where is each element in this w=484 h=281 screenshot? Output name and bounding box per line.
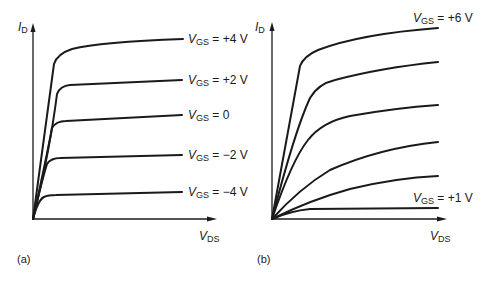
y-axis-label-b: ID — [255, 20, 265, 35]
curve-vgs-minus4 — [33, 192, 182, 219]
label-vgs-minus2: VGS = −2 V — [188, 148, 248, 163]
x-axis-arrow-icon — [207, 217, 217, 222]
label-vgs-plus6: VGS = +6 V — [413, 11, 473, 26]
label-vgs-plus4: VGS = +4 V — [188, 32, 248, 47]
y-axis-label-a: ID — [18, 20, 28, 35]
panel-a: ID VDS VGS = +4 V VGS = +2 V VGS = 0 VGS… — [17, 20, 248, 265]
panel-b: ID VDS VGS = +6 V VGS = +1 V (b) — [255, 11, 473, 265]
curve-vgs-plus1 — [272, 208, 438, 219]
label-vgs-0: VGS = 0 — [188, 108, 230, 123]
y-axis-arrow-icon — [270, 22, 275, 31]
label-vgs-minus4: VGS = −4 V — [188, 185, 248, 200]
vds-label-b: VDS — [430, 229, 451, 244]
panel-caption-a: (a) — [17, 253, 30, 265]
y-axis-arrow-icon — [31, 23, 36, 32]
vds-label-a: VDS — [199, 229, 220, 244]
fet-characteristics-diagram: ID VDS VGS = +4 V VGS = +2 V VGS = 0 VGS… — [0, 0, 484, 281]
curve-vgs-plus2 — [33, 80, 182, 219]
label-vgs-plus1: VGS = +1 V — [413, 191, 473, 206]
curve-vgs-minus2 — [33, 155, 182, 219]
x-axis-arrow-icon — [437, 217, 447, 222]
panel-caption-b: (b) — [257, 253, 270, 265]
curve-vgs-0 — [33, 115, 182, 219]
label-vgs-plus2: VGS = +2 V — [188, 73, 248, 88]
